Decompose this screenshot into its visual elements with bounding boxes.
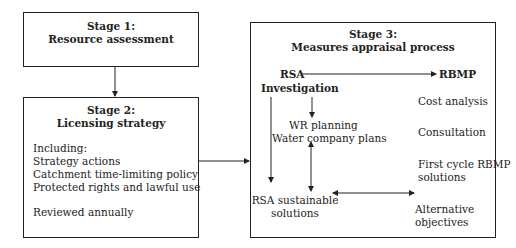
connector-lines [0, 0, 516, 248]
